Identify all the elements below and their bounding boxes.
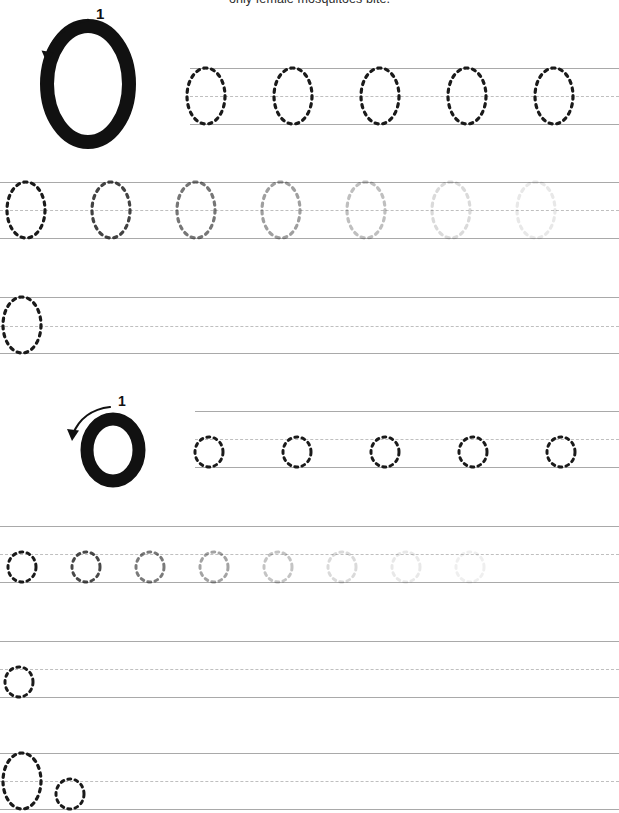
trace-glyph-lowercase-o [456, 552, 484, 582]
trace-glyph-lowercase-o [459, 437, 487, 467]
guideline-base [0, 809, 619, 810]
stroke-number-lowercase: 1 [118, 393, 126, 409]
guideline-mid [0, 781, 619, 782]
guideline-mid [0, 210, 619, 211]
model-glyph-uppercase-O [47, 26, 129, 142]
guideline-top [0, 526, 619, 527]
trace-glyph-lowercase-o [8, 552, 36, 582]
guideline-mid [195, 439, 619, 440]
trace-glyph-lowercase-o [392, 552, 420, 582]
trace-glyph-lowercase-o [195, 437, 223, 467]
model-letter-uppercase-O: 1 [26, 6, 156, 146]
guideline-top [195, 411, 619, 412]
worksheet-page: only female mosquitoes bite. 1 1 [0, 0, 619, 813]
trace-glyph-lowercase-o [547, 437, 575, 467]
trace-glyph-lowercase-o [56, 779, 84, 809]
stroke-number-uppercase: 1 [96, 5, 104, 22]
guideline-top [0, 641, 619, 642]
guideline-base [195, 467, 619, 468]
guideline-base [0, 697, 619, 698]
guideline-mid [0, 326, 619, 327]
trace-glyph-lowercase-o [72, 552, 100, 582]
trace-glyph-lowercase-o [371, 437, 399, 467]
trace-glyph-lowercase-o [283, 437, 311, 467]
stroke-arrow-head-lowercase [67, 429, 79, 441]
trace-glyph-uppercase-O [3, 297, 41, 353]
guideline-mid [0, 554, 619, 555]
guideline-base [0, 582, 619, 583]
trace-glyph-lowercase-o [328, 552, 356, 582]
guideline-top [0, 182, 619, 183]
model-letter-lowercase-o: 1 [58, 390, 168, 490]
trace-glyph-lowercase-o [5, 667, 33, 697]
trace-glyph-lowercase-o [136, 552, 164, 582]
guideline-top [0, 753, 619, 754]
guideline-base [190, 124, 619, 125]
guideline-base [0, 353, 619, 354]
guideline-base [0, 238, 619, 239]
guideline-mid [190, 96, 619, 97]
guideline-mid [0, 669, 619, 670]
trace-glyph-lowercase-o [200, 552, 228, 582]
guideline-top [190, 68, 619, 69]
model-glyph-lowercase-o [87, 419, 139, 481]
trace-glyph-lowercase-o [264, 552, 292, 582]
guideline-top [0, 297, 619, 298]
